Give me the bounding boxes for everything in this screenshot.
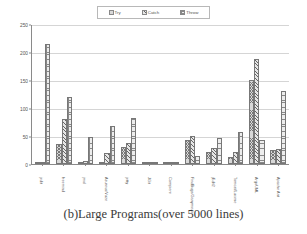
bar-throw	[131, 118, 136, 164]
y-axis-tick-label: 150	[20, 79, 28, 84]
x-axis-tick-label: jmol	[82, 177, 86, 184]
bar-throw	[67, 97, 72, 164]
bar-groups	[32, 25, 289, 164]
x-axis-tick-label: jetty	[125, 177, 129, 184]
x-axis-tick-label: Apache Ant	[276, 177, 280, 197]
bar-group	[121, 25, 137, 164]
x-axis-tick-label: Azureus/Vuze	[104, 177, 108, 201]
legend-label-catch: Catch	[148, 10, 159, 15]
bar-throw	[110, 126, 115, 164]
bar-throw	[45, 44, 50, 164]
x-axis-labels: jeditfreemindjmolAzureus/VuzejettyJGitCo…	[31, 166, 289, 206]
x-axis-tick-label: Compiere	[168, 177, 172, 194]
y-axis: 050100150200250	[0, 25, 31, 165]
x-axis-tick-label: Tomcat/Lucene	[233, 177, 237, 203]
bar-throw	[174, 162, 179, 164]
figure-caption: (b)Large Programs(over 5000 lines)	[0, 207, 307, 222]
bar-group	[163, 25, 179, 164]
legend-label-try: Try	[115, 10, 121, 15]
x-axis-tick-label: freemind	[61, 177, 65, 192]
legend-item-try: Try	[109, 10, 121, 15]
bar-group	[228, 25, 244, 164]
bar-throw	[217, 138, 222, 164]
chart-legend: Try Catch Throw	[97, 6, 210, 19]
x-axis-tick-label: jEdit2	[211, 177, 215, 187]
legend-item-throw: Throw	[180, 10, 198, 15]
legend-item-catch: Catch	[142, 10, 159, 15]
bar-throw	[88, 137, 93, 164]
bar-group	[99, 25, 115, 164]
bar-group	[78, 25, 94, 164]
bar-group	[56, 25, 72, 164]
x-axis-tick-label: jedit	[39, 177, 43, 184]
legend-swatch-try-icon	[109, 10, 114, 15]
y-axis-tick-label: 100	[20, 107, 28, 112]
x-axis-tick-label: ArgoUML	[254, 177, 258, 193]
y-axis-tick-label: 250	[20, 23, 28, 28]
bar-group	[142, 25, 158, 164]
bar-throw	[195, 156, 200, 164]
bar-group	[206, 25, 222, 164]
x-axis-label-slot: Apache Ant	[280, 166, 307, 184]
bar-throw	[238, 132, 243, 164]
legend-swatch-throw-icon	[180, 10, 185, 15]
legend-swatch-catch-icon	[142, 10, 147, 15]
plot-area	[31, 25, 289, 165]
y-axis-tick-label: 50	[23, 135, 28, 140]
bar-group	[270, 25, 286, 164]
bar-throw	[281, 91, 286, 164]
bar-group	[249, 25, 265, 164]
bar-throw	[152, 162, 157, 164]
bar-group	[185, 25, 201, 164]
bar-group	[35, 25, 51, 164]
bar-throw	[259, 140, 264, 164]
x-axis-tick-label: JGit	[147, 177, 151, 184]
y-axis-tick-label: 0	[25, 163, 28, 168]
legend-label-throw: Throw	[186, 10, 198, 15]
y-axis-tick-label: 200	[20, 51, 28, 56]
